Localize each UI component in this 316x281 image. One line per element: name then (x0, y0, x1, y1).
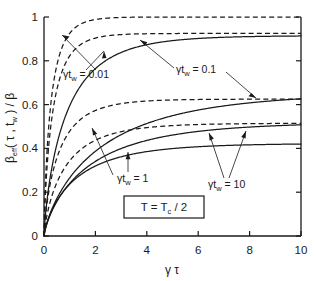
y-tick-label-0: 0 (32, 230, 38, 242)
arrowhead-1-upleft (92, 128, 97, 136)
figure-container: 0 2 4 6 8 10 0 0.2 0.4 0.6 0.8 1 γ τ βef… (0, 0, 316, 281)
annotation-label-10: γtw = 10 (208, 178, 245, 193)
curve-10-dashed (44, 123, 301, 236)
curve-1-solid (44, 125, 301, 236)
curve-10-solid (44, 144, 301, 236)
x-tick-label-10: 10 (295, 244, 308, 256)
ann3-prefix: γt (117, 172, 125, 184)
annotation-label-0.01: γtw = 0.01 (63, 68, 109, 83)
y-tick-label-0.2: 0.2 (22, 186, 38, 198)
chart-svg: 0 2 4 6 8 10 0 0.2 0.4 0.6 0.8 1 γ τ βef… (0, 0, 316, 281)
y-axis-title: βeff( τ , tw ) / β (3, 93, 19, 163)
x-tick-label-6: 6 (195, 244, 201, 256)
box-tail: / 2 (171, 201, 187, 213)
ann4-suffix: = 10 (222, 178, 246, 190)
ann1-suffix: = 0.01 (77, 68, 110, 80)
x-tick-label-2: 2 (92, 244, 98, 256)
annotation-label-0.1: γtw = 0.1 (176, 63, 216, 78)
ann1-prefix: γt (63, 68, 71, 80)
x-tick-label-4: 4 (144, 244, 151, 256)
ann2-suffix: = 0.1 (190, 63, 217, 75)
arrowhead-0.1-downright (249, 93, 257, 98)
ann3-suffix: = 1 (131, 172, 149, 184)
y-tick-labels: 0 0.2 0.4 0.6 0.8 1 (22, 11, 39, 242)
y-tick-label-0.6: 0.6 (22, 99, 38, 111)
annotation-gamma-tw-0.01: γtw = 0.01 (62, 35, 109, 83)
y-title-mid: ( τ , t (3, 122, 17, 148)
y-tick-label-1: 1 (32, 11, 38, 23)
box-t-prefix: T = T (141, 201, 168, 213)
annotation-gamma-tw-10: γtw = 10 (208, 131, 246, 193)
y-tick-label-0.4: 0.4 (22, 142, 39, 154)
arrowhead-10-upright (241, 131, 246, 139)
leader-10-upright (229, 131, 246, 178)
annotation-label-1: γtw = 1 (117, 172, 149, 187)
x-axis-title: γ τ (165, 263, 179, 277)
x-tick-label-0: 0 (41, 244, 47, 256)
x-tick-labels: 0 2 4 6 8 10 (41, 244, 308, 256)
y-title-tail: ) / β (3, 93, 17, 117)
x-tick-label-8: 8 (246, 244, 252, 256)
svg-text:βeff( τ , tw ) / β: βeff( τ , tw ) / β (3, 93, 19, 163)
temperature-annotation-box: T = Tc / 2 (124, 196, 204, 218)
annotation-gamma-tw-0.1: γtw = 0.1 (140, 40, 256, 98)
arrowhead-10-upleft (209, 133, 214, 141)
y-tick-label-0.8: 0.8 (22, 55, 38, 67)
ann2-prefix: γt (176, 63, 184, 75)
ann4-prefix: γt (208, 178, 216, 190)
x-tick-marks (44, 231, 301, 236)
